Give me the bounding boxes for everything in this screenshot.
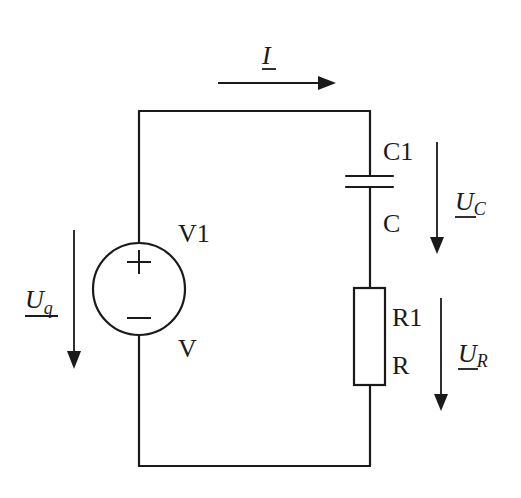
capacitor-voltage-indicator: UC — [430, 142, 487, 254]
uq-arrow-head-icon — [67, 351, 81, 369]
circuit-diagram: I V1 V Uq C1 C UC R1 R U — [0, 0, 521, 498]
ur-arrow-head-icon — [434, 394, 448, 411]
uq-label: Uq — [25, 285, 53, 318]
source-name-label: V1 — [178, 219, 210, 248]
current-indicator: I — [218, 41, 336, 90]
capacitor-value-label: C — [383, 209, 400, 238]
resistor-name-label: R1 — [392, 303, 422, 332]
capacitor: C1 C — [346, 137, 413, 238]
current-label: I — [261, 41, 272, 70]
uc-label: UC — [455, 187, 487, 219]
uc-arrow-head-icon — [430, 237, 444, 254]
resistor-value-label: R — [392, 351, 410, 380]
capacitor-name-label: C1 — [383, 137, 413, 166]
current-arrow-head-icon — [318, 76, 336, 90]
resistor-voltage-indicator: UR — [434, 298, 488, 411]
ur-label: UR — [458, 339, 488, 371]
resistor-body — [354, 288, 385, 385]
voltage-source: V1 V — [93, 219, 210, 363]
resistor: R1 R — [354, 288, 422, 385]
source-value-label: V — [178, 334, 197, 363]
source-voltage-indicator: Uq — [25, 230, 81, 369]
